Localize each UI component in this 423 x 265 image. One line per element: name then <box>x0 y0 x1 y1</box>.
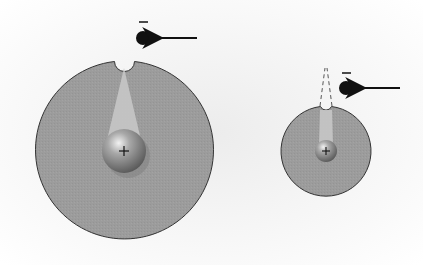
small-electron <box>339 81 353 95</box>
diagram-canvas <box>0 0 423 265</box>
large-electron <box>136 31 150 45</box>
atom-comparison-diagram <box>0 0 423 265</box>
large-atom <box>35 62 213 239</box>
